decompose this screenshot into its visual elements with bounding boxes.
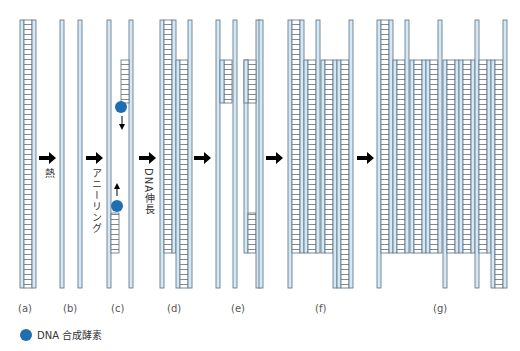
- step-label-b: (b): [63, 303, 77, 314]
- arrow-icon: [139, 152, 156, 164]
- step-label-d: (d): [167, 303, 181, 314]
- polymerase-icons: [111, 101, 127, 212]
- arrow-icon: [86, 152, 103, 164]
- legend: DNA 合成酵素: [20, 327, 102, 342]
- step-label-e: (e): [231, 303, 245, 314]
- step-label-a: (a): [18, 303, 32, 314]
- polymerase-icon: [20, 329, 32, 341]
- pcr-diagram: [0, 0, 520, 351]
- polymerase-icon: [115, 101, 127, 113]
- heat-label: 熱: [41, 168, 56, 179]
- step-label-c: (c): [111, 303, 124, 314]
- polymerase-icon: [111, 200, 123, 212]
- step-label-g: (g): [433, 303, 447, 314]
- legend-label: DNA 合成酵素: [37, 327, 102, 342]
- step-label-f: (f): [315, 303, 326, 314]
- arrow-icon: [194, 152, 211, 164]
- arrow-icon: [266, 152, 283, 164]
- arrow-icon: [357, 152, 374, 164]
- annealing-label: アニーリング: [88, 168, 103, 234]
- extension-label: DNA伸長: [141, 168, 156, 215]
- arrow-icon: [39, 152, 56, 164]
